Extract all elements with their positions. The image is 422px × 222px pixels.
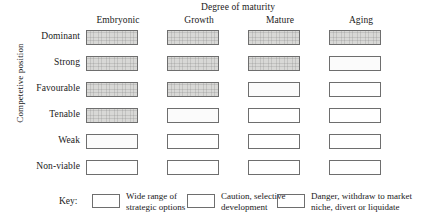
legend-swatch-wide [92, 194, 120, 208]
chart-title: Degree of maturity [86, 2, 390, 12]
matrix-cell [329, 134, 381, 149]
matrix-cell [167, 160, 219, 175]
matrix-cell [329, 160, 381, 175]
matrix-cell [248, 56, 300, 71]
legend-label-danger-line1: Danger, withdraw to market [311, 191, 412, 202]
matrix-cell [86, 82, 138, 97]
matrix-cell [86, 56, 138, 71]
legend-swatch-danger [277, 194, 305, 208]
matrix-cell [86, 160, 138, 175]
row-label-favourable: Favourable [20, 83, 80, 93]
column-header-row: Embryonic Growth Mature Aging [86, 15, 406, 28]
row-label-strong: Strong [20, 57, 80, 67]
column-header-aging: Aging [329, 15, 393, 25]
matrix-cell [167, 56, 219, 71]
matrix-cell [329, 108, 381, 123]
row-label-non-viable: Non-viable [20, 161, 80, 171]
matrix-cell [167, 30, 219, 45]
legend-swatch-caution [187, 194, 215, 208]
matrix-cell [167, 134, 219, 149]
legend-label-wide: Wide range of strategic options [126, 191, 185, 212]
matrix-cell [86, 108, 138, 123]
legend-label-caution-line1: Caution, selective [221, 191, 285, 202]
matrix-cell [329, 56, 381, 71]
matrix-cell [248, 134, 300, 149]
row-label-dominant: Dominant [20, 31, 80, 41]
matrix-cell [248, 160, 300, 175]
legend-label-danger-line2: niche, divert or liquidate [311, 202, 412, 213]
legend-label-wide-line2: strategic options [126, 202, 185, 213]
legend-label-wide-line1: Wide range of [126, 191, 185, 202]
matrix-cell [248, 82, 300, 97]
legend-key-label: Key: [59, 196, 77, 206]
matrix-cell [86, 30, 138, 45]
legend-label-caution-line2: development [221, 202, 285, 213]
matrix-cell [86, 134, 138, 149]
legend-label-caution: Caution, selective development [221, 191, 285, 212]
legend: Key: Wide range of strategic options Cau… [0, 190, 422, 220]
matrix-cell [248, 30, 300, 45]
row-label-weak: Weak [20, 135, 80, 145]
legend-label-danger: Danger, withdraw to market niche, divert… [311, 191, 412, 212]
matrix-cell [329, 82, 381, 97]
column-header-embryonic: Embryonic [86, 15, 150, 25]
column-header-growth: Growth [167, 15, 231, 25]
column-header-mature: Mature [248, 15, 312, 25]
matrix-cell [329, 30, 381, 45]
row-label-tenable: Tenable [20, 109, 80, 119]
matrix-cell [248, 108, 300, 123]
matrix-cell [167, 108, 219, 123]
matrix-cell [167, 82, 219, 97]
